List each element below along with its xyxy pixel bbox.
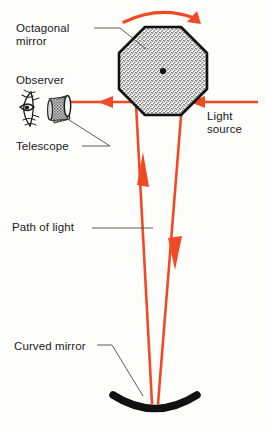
label-curved-mirror: Curved mirror: [14, 340, 86, 353]
leader-telescope: [66, 118, 110, 146]
up-beam-line: [136, 104, 152, 404]
leader-curved-mirror: [97, 345, 143, 396]
down-beam-line: [158, 104, 182, 404]
label-observer: Observer: [16, 74, 64, 87]
light-beam-paths: [68, 96, 258, 404]
diagram-canvas: Octagonal mirror Observer Telescope Path…: [0, 0, 266, 430]
label-telescope: Telescope: [16, 140, 69, 153]
octagonal-mirror: [119, 27, 207, 115]
outgoing-beam-arrowhead: [98, 96, 113, 108]
mirror-axle-dot: [160, 68, 166, 74]
label-path-of-light: Path of light: [12, 221, 74, 234]
rotation-arrow-icon: [124, 11, 201, 24]
label-octagonal-mirror: Octagonal mirror: [16, 22, 69, 48]
label-light-source: Light source: [207, 110, 242, 136]
diagram-svg: [0, 0, 266, 430]
observer-eye-icon: [20, 90, 39, 126]
curved-mirror: [113, 395, 197, 409]
